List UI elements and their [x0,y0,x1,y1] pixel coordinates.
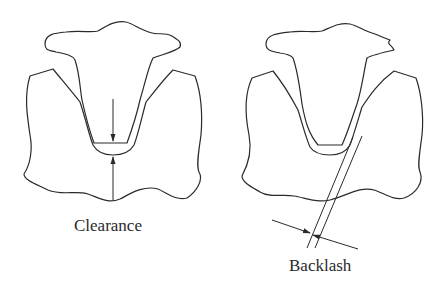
clearance-label: Clearance [74,216,142,236]
backlash-arrow-left [272,220,310,233]
clearance-panel [24,22,202,201]
lower-gear-outline-right [242,71,423,201]
backlash-label: Backlash [289,256,351,276]
backlash-arrow-right [313,235,358,249]
upper-gear-outline-right [266,24,394,145]
line-of-action-2 [315,136,362,248]
gear-mesh-diagram [0,0,447,286]
line-of-action-1 [307,137,353,248]
backlash-panel [242,24,423,249]
